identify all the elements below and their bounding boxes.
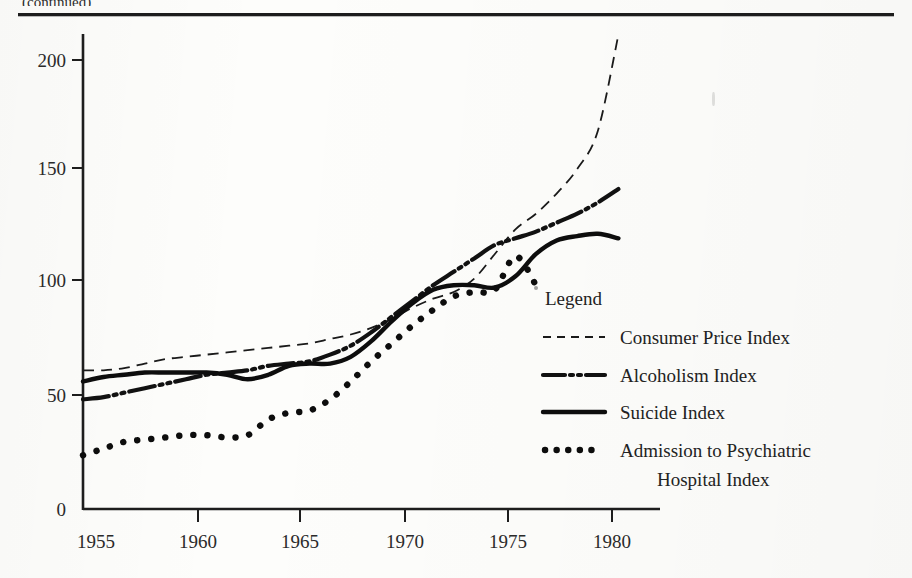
series-alcoholism-index [83, 189, 618, 399]
legend-entry-consumer-price-index: Consumer Price Index [543, 327, 790, 348]
legend-entry-suicide-index: Suicide Index [543, 402, 726, 423]
legend: Legend Consumer Price Index Alcoholism I… [543, 288, 811, 490]
x-ticks [198, 509, 612, 522]
x-tick-label-1975: 1975 [489, 531, 527, 552]
legend-label-suicide-index: Suicide Index [620, 402, 726, 423]
x-tick-label-1960: 1960 [179, 531, 217, 552]
x-tick-labels: 1955 1960 1965 1970 1975 1980 [77, 531, 631, 552]
figure-page: (continued) 200 150 100 50 0 [0, 0, 912, 578]
x-tick-label-1955: 1955 [77, 531, 115, 552]
y-tick-label-100: 100 [38, 270, 67, 291]
legend-entry-admission-to-psychiatric-hospital-index: Admission to Psychiatric Hospital Index [545, 440, 811, 490]
y-ticks [72, 60, 83, 395]
x-tick-label-1970: 1970 [386, 531, 424, 552]
line-chart: 200 150 100 50 0 1955 1960 1965 1970 197… [0, 0, 912, 578]
y-tick-labels: 200 150 100 50 0 [38, 50, 67, 520]
legend-label-admission-line1: Admission to Psychiatric [620, 440, 811, 461]
legend-entry-alcoholism-index: Alcoholism Index [543, 365, 757, 386]
y-tick-label-150: 150 [38, 158, 67, 179]
legend-label-admission-line2: Hospital Index [657, 469, 770, 490]
x-tick-label-1980: 1980 [593, 531, 631, 552]
y-tick-label-0: 0 [57, 499, 67, 520]
axis-group [83, 34, 660, 510]
series-group [83, 35, 618, 456]
x-tick-label-1965: 1965 [281, 531, 319, 552]
y-tick-label-50: 50 [47, 385, 66, 406]
legend-label-consumer-price-index: Consumer Price Index [620, 327, 790, 348]
y-tick-label-200: 200 [38, 50, 67, 71]
legend-label-alcoholism-index: Alcoholism Index [620, 365, 757, 386]
legend-title: Legend [545, 288, 602, 309]
series-consumer-price-index [83, 35, 618, 371]
